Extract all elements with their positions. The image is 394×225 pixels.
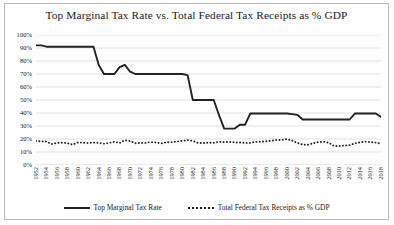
x-axis-tick-label: 1960	[75, 167, 81, 180]
x-axis-tick-label: 1958	[64, 167, 70, 180]
y-axis-tick-label: 80%	[20, 58, 32, 65]
x-axis-tick-label: 1988	[221, 167, 227, 180]
x-axis-tick-label: 2008	[326, 167, 332, 180]
legend-dotted-line-icon	[188, 207, 214, 209]
y-axis-tick-label: 0%	[23, 162, 32, 169]
x-axis-tick-label: 2004	[305, 167, 311, 180]
x-axis-tick-label: 1966	[106, 167, 112, 180]
y-axis-tick-label: 20%	[20, 136, 32, 143]
x-axis-tick-label: 2016	[367, 167, 373, 180]
legend-solid-line-icon	[64, 207, 90, 209]
chart-title: Top Marginal Tax Rate vs. Total Federal …	[5, 9, 388, 21]
legend-label-1: Total Federal Tax Receipts as % GDP	[218, 203, 330, 212]
x-axis-tick-label: 1970	[127, 167, 133, 180]
x-axis-tick-label: 1952	[33, 167, 39, 180]
series-line-1	[36, 139, 381, 146]
chart-legend: Top Marginal Tax Rate Total Federal Tax …	[5, 203, 388, 212]
x-axis-tick-label: 2006	[315, 167, 321, 180]
x-axis-tick-label: 1954	[43, 167, 49, 180]
legend-label-0: Top Marginal Tax Rate	[94, 203, 162, 212]
x-axis-tick-label: 1984	[200, 167, 206, 180]
plot-area	[36, 35, 381, 165]
y-axis: 0%10%20%30%40%50%60%70%80%90%100%	[5, 35, 34, 165]
x-axis-tick-label: 1978	[169, 167, 175, 180]
x-axis-tick-label: 2002	[294, 167, 300, 180]
y-axis-tick-label: 30%	[20, 123, 32, 130]
y-axis-tick-label: 40%	[20, 110, 32, 117]
legend-item-top-marginal-tax-rate: Top Marginal Tax Rate	[64, 203, 162, 212]
x-axis-tick-label: 1986	[211, 167, 217, 180]
x-axis-tick-label: 1968	[116, 167, 122, 180]
x-axis-tick-label: 1996	[263, 167, 269, 180]
x-axis-tick-label: 1972	[137, 167, 143, 180]
y-axis-tick-label: 90%	[20, 45, 32, 52]
x-axis-tick-label: 2018	[378, 167, 384, 180]
data-series-group	[36, 45, 381, 146]
x-axis-tick-label: 1974	[148, 167, 154, 180]
chart-container: Top Marginal Tax Rate vs. Total Federal …	[4, 3, 389, 220]
x-axis-tick-label: 2014	[357, 167, 363, 180]
x-axis-tick-label: 1980	[179, 167, 185, 180]
x-axis-tick-label: 1982	[190, 167, 196, 180]
x-axis: 1952195419561958196019621964196619681970…	[36, 167, 381, 201]
y-axis-tick-label: 50%	[20, 97, 32, 104]
legend-item-total-federal-tax-receipts: Total Federal Tax Receipts as % GDP	[188, 203, 330, 212]
y-axis-tick-label: 10%	[20, 149, 32, 156]
y-axis-tick-label: 70%	[20, 71, 32, 78]
y-axis-tick-label: 100%	[17, 32, 32, 39]
x-axis-tick-label: 2000	[284, 167, 290, 180]
x-axis-tick-label: 2012	[346, 167, 352, 180]
y-axis-tick-label: 60%	[20, 84, 32, 91]
x-axis-tick-label: 1994	[252, 167, 258, 180]
x-axis-tick-label: 1956	[54, 167, 60, 180]
x-axis-tick-label: 1990	[231, 167, 237, 180]
x-axis-tick-label: 1992	[242, 167, 248, 180]
x-axis-tick-label: 1998	[273, 167, 279, 180]
x-axis-tick-label: 1976	[158, 167, 164, 180]
x-axis-tick-label: 1962	[85, 167, 91, 180]
x-axis-tick-label: 2010	[336, 167, 342, 180]
chart-plot-svg	[36, 35, 381, 165]
x-axis-tick-label: 1964	[96, 167, 102, 180]
